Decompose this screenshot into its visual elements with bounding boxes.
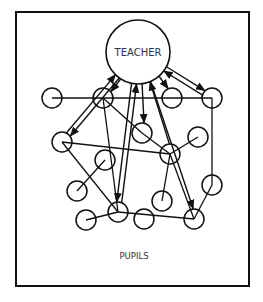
teacher-arrow xyxy=(164,71,202,95)
pupil-link xyxy=(62,142,170,154)
pupils-label: PUPILS xyxy=(119,251,148,261)
pupil-link xyxy=(86,212,118,220)
pupil-link xyxy=(103,98,142,133)
teacher-node: TEACHER xyxy=(106,20,170,84)
teacher-arrow xyxy=(67,75,116,133)
pupil-link xyxy=(77,160,105,191)
teacher-arrow xyxy=(166,67,204,91)
teacher-arrow xyxy=(70,78,119,136)
teacher-arrow xyxy=(142,84,144,123)
teacher-arrows xyxy=(67,67,205,209)
teacher-label: TEACHER xyxy=(114,47,162,58)
teacher-arrow xyxy=(151,82,194,209)
pupil-nodes xyxy=(42,88,222,230)
pupil-node xyxy=(134,209,154,229)
pupil-link xyxy=(118,212,194,219)
teacher-pupil-diagram: TEACHER PUPILS xyxy=(0,0,263,302)
pupil-link xyxy=(103,98,118,212)
teacher-arrow xyxy=(150,82,169,144)
teacher-arrow xyxy=(159,76,168,88)
